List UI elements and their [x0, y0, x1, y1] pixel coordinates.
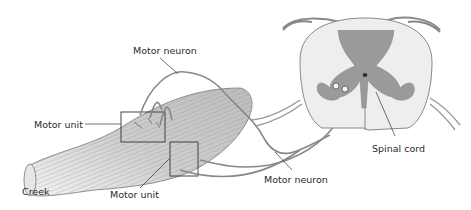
label-motor-unit-bottom: Motor unit: [110, 189, 159, 200]
label-motor-unit-left: Motor unit: [34, 119, 83, 130]
label-creek: Creek: [22, 186, 50, 197]
muscle-spinal-cord-diagram: [0, 0, 471, 210]
spinal-cord-section: [252, 18, 460, 130]
label-spinal-cord: Spinal cord: [372, 143, 425, 154]
label-motor-neuron-bottom: Motor neuron: [264, 174, 328, 185]
label-motor-neuron-top: Motor neuron: [133, 45, 197, 56]
